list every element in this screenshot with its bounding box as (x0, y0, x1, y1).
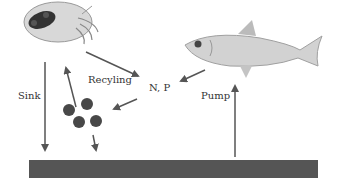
particle-sink-arrow (93, 135, 96, 150)
fish-excretion-arrow (181, 70, 205, 81)
zooplankton-icon (24, 2, 98, 44)
nutrients-label: N, P (149, 82, 170, 93)
nutrient-uptake-arrow (114, 99, 137, 109)
sink-label: Sink (18, 90, 41, 101)
particles-icon (63, 98, 102, 128)
recycling-label: Recyling (88, 74, 132, 85)
pump-label: Pump (201, 90, 230, 101)
recycling-arrow (86, 52, 138, 76)
uptake-arrow (66, 68, 76, 107)
sediment-bar (29, 160, 318, 178)
fish-icon (185, 20, 322, 78)
